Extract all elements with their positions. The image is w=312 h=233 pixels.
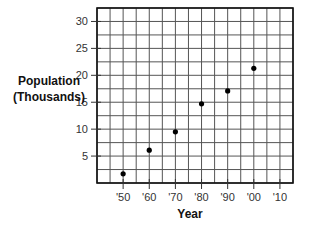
y-tick-label: 30 [76, 15, 88, 27]
scatter-chart: 51015202530 '50'60'70'80'90'00'10 Popula… [0, 0, 312, 233]
data-point [173, 129, 178, 134]
data-point [225, 88, 230, 93]
data-point [147, 148, 152, 153]
x-tick-label: '60 [142, 191, 156, 203]
data-point [199, 101, 204, 106]
data-point [251, 66, 256, 71]
x-tick-label: '80 [194, 191, 208, 203]
y-axis-title-line2: (Thousands) [13, 90, 85, 104]
x-tick-label: '70 [168, 191, 182, 203]
data-point [121, 171, 126, 176]
x-tick-label: '00 [247, 191, 261, 203]
x-tick-label: '10 [273, 191, 287, 203]
x-tick-label: '50 [116, 191, 130, 203]
plot-grid [97, 8, 293, 183]
x-axis-title: Year [177, 207, 203, 221]
y-axis-title-line1: Population [18, 74, 80, 88]
y-tick-label: 5 [82, 150, 88, 162]
y-tick-label: 10 [76, 123, 88, 135]
y-tick-label: 25 [76, 42, 88, 54]
x-tick-label: '90 [220, 191, 234, 203]
